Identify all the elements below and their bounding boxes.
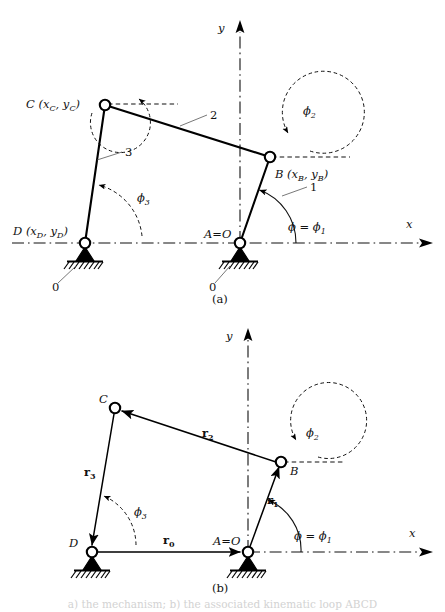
axis-label-y-b: y [225,329,233,343]
panel-b: y x C B D A=O r0 r1 r2 r3 ϕ = ϕ1 ϕ2 ϕ3 (… [68,328,433,595]
joint-label-a-a: A=O [203,227,232,241]
figure-root: y x C (xC, yC) B (xB, yB) D (xD, yD) A=O… [0,0,445,612]
link-3-rocker-a [85,105,105,243]
vector-r2-b [122,411,279,463]
link-number-1-a: 1 [310,180,317,194]
angle-label-phi3-b: ϕ3 [134,505,147,521]
x-axis-arrow-a [419,238,433,247]
angle-label-phi1-b: ϕ = ϕ1 [294,529,332,545]
vector-label-r3-b: r3 [84,465,96,481]
joint-b-b [276,457,286,467]
ground-support-d-pivot [64,238,103,269]
joint-label-b-b: B [289,464,298,478]
mechanism-figure: y x C (xC, yC) B (xB, yB) D (xD, yD) A=O… [0,0,445,612]
joint-label-b-a: B (xB, yB) [274,167,328,183]
joint-label-c-b: C [99,392,108,406]
angle-arc-phi3-a [99,185,142,236]
caption-a: (a) [212,292,228,306]
vector-label-r1-b: r1 [267,493,279,509]
angle-arc-phi2-a [282,71,364,153]
angle-label-phi2-a: ϕ2 [303,104,316,120]
joint-label-d-a: D (xD, yD) [12,224,68,240]
link-number-3-a: 3 [125,145,132,159]
angle-arc-phi2-b [291,383,367,459]
leader-link-3-a [97,152,122,160]
angle-label-phi1-a: ϕ = ϕ1 [288,220,326,236]
joint-label-a-b: A=O [212,534,241,548]
figure-cropped-caption: a) the mechanism; b) the associated kine… [0,598,445,612]
caption-b: (b) [212,581,228,595]
joint-label-d-b: D [68,536,78,550]
angle-label-phi2-b: ϕ2 [306,426,319,442]
leader-ground-right-a [215,266,230,283]
panel-b-x-axis [248,547,433,556]
angle-arc-phi1-a [260,190,297,243]
leader-link-1-a [282,187,307,196]
axis-label-x-b: x [409,526,416,540]
leader-link-2-a [180,115,207,126]
axis-label-y-a: y [217,21,225,35]
panel-b-y-axis [244,328,253,552]
vector-label-r0-b: r0 [163,533,175,549]
angle-arc-phi3-b [104,496,136,545]
panel-a: y x C (xC, yC) B (xB, yB) D (xD, yD) A=O… [12,20,433,306]
angle-label-phi3-a: ϕ3 [137,191,150,207]
axis-label-x-a: x [406,217,413,231]
panel-a-y-axis [236,20,245,243]
joint-b-a [265,152,275,162]
joint-c-a [100,100,110,110]
vector-r1-b [248,467,279,552]
leader-ground-left-a [58,266,76,283]
vector-label-r2-b: r2 [202,426,214,442]
ground-number-left-a: 0 [52,280,59,294]
joint-c-b [110,403,120,413]
joint-label-c-a: C (xC, yC) [26,97,80,113]
link-number-2-a: 2 [210,108,217,122]
link-1-crank-a [240,157,270,243]
y-axis-arrow-a [236,20,245,33]
y-axis-arrow-b [244,328,253,341]
x-axis-arrow-b [419,547,433,556]
